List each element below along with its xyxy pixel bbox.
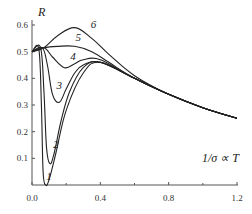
- x-tick-label: 1.2: [231, 193, 242, 203]
- curve-2: [32, 45, 237, 164]
- x-tick-label: 0.8: [163, 193, 175, 203]
- y-tick-label: 0.3: [17, 100, 29, 110]
- curve-labels: 123456: [46, 18, 96, 182]
- line-chart: 0.10.20.30.40.50.6 0.00.40.81.2 123456 R…: [0, 0, 252, 214]
- curve-label-5: 5: [75, 31, 81, 43]
- curve-label-4: 4: [70, 50, 76, 62]
- x-tick-label: 0.4: [95, 193, 107, 203]
- y-tick-label: 0.2: [17, 127, 28, 137]
- curve-5: [32, 46, 237, 118]
- curve-4: [32, 48, 237, 119]
- curve-label-2: 2: [53, 138, 59, 150]
- x-tick-label: 0.0: [26, 193, 38, 203]
- y-tick-label: 0.4: [17, 73, 29, 83]
- curve-label-1: 1: [46, 170, 52, 182]
- y-tick-label: 0.1: [17, 153, 28, 163]
- curve-6: [32, 28, 237, 119]
- x-axis-title: 1/σ ∝ T: [202, 151, 240, 165]
- curve-label-6: 6: [91, 18, 97, 30]
- curve-3: [32, 47, 237, 118]
- curve-label-3: 3: [56, 79, 63, 91]
- y-tick-label: 0.5: [17, 47, 29, 57]
- y-tick-label: 0.6: [17, 20, 29, 30]
- y-axis-title: R: [37, 5, 46, 19]
